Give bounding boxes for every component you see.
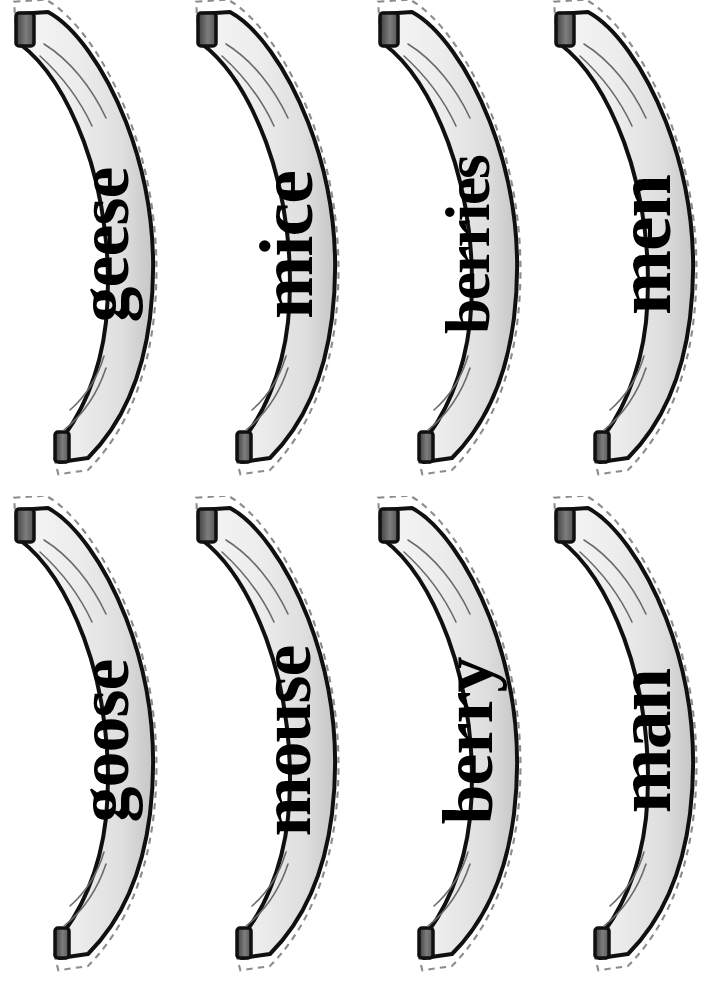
banana-tip-icon	[237, 928, 251, 958]
banana-tip-icon	[595, 928, 609, 958]
banana-card[interactable]: man	[540, 496, 720, 986]
banana-tip-icon	[419, 432, 433, 462]
banana-icon	[182, 496, 362, 986]
banana-card[interactable]: mouse	[182, 496, 362, 986]
banana-tip-icon	[55, 928, 69, 958]
banana-stem-icon	[198, 509, 216, 542]
banana-stem-icon	[16, 509, 34, 542]
banana-icon	[182, 0, 362, 490]
banana-card[interactable]: geese	[0, 0, 180, 490]
banana-icon	[540, 496, 720, 986]
banana-tip-icon	[419, 928, 433, 958]
banana-stem-icon	[556, 13, 574, 46]
banana-stem-icon	[380, 509, 398, 542]
banana-stem-icon	[198, 13, 216, 46]
banana-tip-icon	[595, 432, 609, 462]
banana-tip-icon	[55, 432, 69, 462]
worksheet-page: geese	[0, 0, 725, 987]
banana-card[interactable]: goose	[0, 496, 180, 986]
banana-card[interactable]: berries	[364, 0, 544, 490]
banana-stem-icon	[380, 13, 398, 46]
banana-icon	[364, 0, 544, 490]
banana-icon	[364, 496, 544, 986]
banana-icon	[540, 0, 720, 490]
banana-card[interactable]: berry	[364, 496, 544, 986]
banana-stem-icon	[556, 509, 574, 542]
banana-icon	[0, 496, 180, 986]
banana-card[interactable]: mice	[182, 0, 362, 490]
banana-stem-icon	[16, 13, 34, 46]
banana-card[interactable]: men	[540, 0, 720, 490]
banana-card-grid: geese	[0, 0, 725, 987]
banana-tip-icon	[237, 432, 251, 462]
banana-icon	[0, 0, 180, 490]
